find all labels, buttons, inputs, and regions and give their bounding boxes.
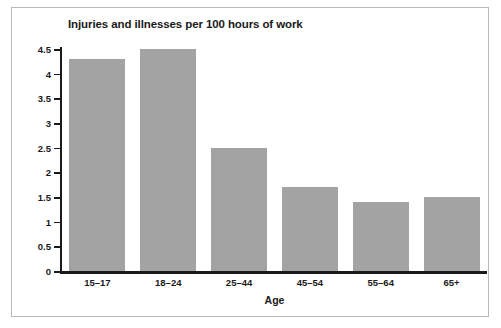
x-tick-label: 45–54 bbox=[274, 277, 345, 288]
bar-slot bbox=[62, 49, 133, 271]
y-tick-mark bbox=[54, 271, 62, 273]
y-tick-mark bbox=[54, 74, 62, 76]
y-tick-label: 0 bbox=[46, 266, 51, 277]
bar bbox=[353, 202, 409, 271]
y-tick-mark bbox=[54, 49, 62, 51]
y-tick-label: 4.5 bbox=[38, 44, 51, 55]
y-tick-mark bbox=[54, 172, 62, 174]
x-tick-label: 25–44 bbox=[204, 277, 275, 288]
y-tick-mark bbox=[54, 246, 62, 248]
y-tick-label: 4 bbox=[46, 68, 51, 79]
chart-figure: Injuries and illnesses per 100 hours of … bbox=[0, 0, 501, 328]
x-tick-label: 15–17 bbox=[62, 277, 133, 288]
y-tick-label: 1.5 bbox=[38, 191, 51, 202]
bar-slot bbox=[204, 49, 275, 271]
bar bbox=[282, 187, 338, 271]
bar bbox=[211, 148, 267, 271]
bar bbox=[424, 197, 480, 271]
x-axis-line bbox=[60, 271, 487, 274]
x-tick-label: 65+ bbox=[416, 277, 487, 288]
x-axis-title: Age bbox=[62, 294, 487, 306]
y-tick-label: 2 bbox=[46, 167, 51, 178]
bar-slot bbox=[416, 49, 487, 271]
bar bbox=[140, 49, 196, 271]
y-tick-mark bbox=[54, 98, 62, 100]
y-tick-label: 2.5 bbox=[38, 142, 51, 153]
y-tick-label: 0.5 bbox=[38, 241, 51, 252]
x-tick-label: 55–64 bbox=[345, 277, 416, 288]
bar-slot bbox=[345, 49, 416, 271]
chart-title: Injuries and illnesses per 100 hours of … bbox=[68, 18, 303, 30]
y-tick-mark bbox=[54, 222, 62, 224]
plot-area: 00.511.522.533.544.5 bbox=[62, 49, 487, 271]
bar bbox=[69, 59, 125, 271]
bar-slot bbox=[133, 49, 204, 271]
y-tick-label: 1 bbox=[46, 216, 51, 227]
y-tick-mark bbox=[54, 123, 62, 125]
y-tick-mark bbox=[54, 197, 62, 199]
bar-series bbox=[62, 49, 487, 271]
y-tick-label: 3.5 bbox=[38, 93, 51, 104]
x-tick-label: 18–24 bbox=[133, 277, 204, 288]
x-axis-tick-labels: 15–1718–2425–4445–5455–6465+ bbox=[62, 277, 487, 288]
bar-slot bbox=[274, 49, 345, 271]
y-tick-label: 3 bbox=[46, 117, 51, 128]
y-tick-mark bbox=[54, 148, 62, 150]
